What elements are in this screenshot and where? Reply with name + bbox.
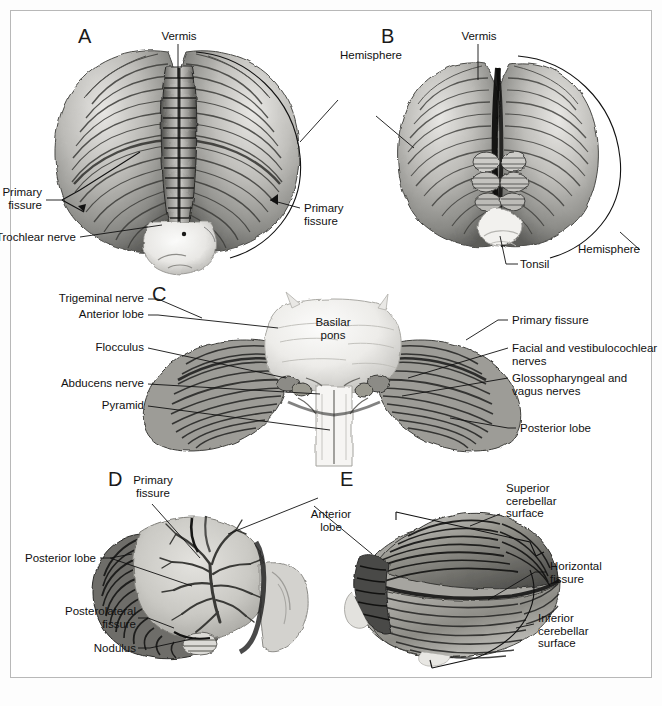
label-flocculus-c: Flocculus — [64, 341, 144, 354]
label-superior-cerebellar-surface-e: Superior cerebellar surface — [506, 482, 557, 520]
label-primary-fissure-d: Primary fissure — [124, 474, 182, 499]
label-horizontal-fissure-e: Horizontal fissure — [550, 560, 602, 585]
label-anterior-lobe-c: Anterior lobe — [40, 308, 144, 321]
label-vermis-b: Vermis — [451, 30, 507, 43]
label-posterolateral-fissure-d: Posterolateral fissure — [44, 605, 136, 630]
label-trigeminal-nerve-c: Trigeminal nerve — [30, 292, 144, 305]
panel-b-illustration — [378, 22, 646, 277]
label-vermis-a: Vermis — [151, 30, 207, 43]
label-primary-fissure-a-right: Primary fissure — [304, 202, 344, 227]
panel-letter-d: D — [108, 468, 123, 491]
label-posterior-lobe-c: Posterior lobe — [520, 422, 591, 435]
panel-letter-a: A — [78, 25, 92, 48]
label-hemisphere-b: Hemisphere — [578, 243, 640, 256]
panel-letter-b: B — [381, 25, 395, 48]
label-trochlear-nerve-a: Trochlear nerve — [0, 231, 76, 244]
label-pyramid-c: Pyramid — [76, 399, 144, 412]
panel-d: D Primary fissure Posterior lobe Postero… — [24, 472, 324, 668]
label-glossopharyngeal-vagus-nerves-c: Glossopharyngeal and vagus nerves — [512, 372, 627, 397]
label-tonsil-b: Tonsil — [520, 258, 549, 271]
panel-letter-c: C — [152, 283, 167, 306]
panel-b: Vermis Hemisphere Tonsil — [378, 22, 646, 277]
panel-c: Trigeminal nerve Anterior lobe Flocculus… — [30, 282, 630, 468]
anatomy-figure: Vermis Hemisphere Primary fissure Primar… — [0, 0, 662, 706]
label-primary-fissure-c: Primary fissure — [512, 314, 589, 327]
panel-letter-e: E — [340, 468, 354, 491]
label-abducens-nerve-c: Abducens nerve — [30, 377, 144, 390]
label-nodulus-d: Nodulus — [66, 642, 136, 655]
label-inferior-cerebellar-surface-e: Inferior cerebellar surface — [538, 612, 589, 650]
panel-a: Vermis Hemisphere Primary fissure Primar… — [18, 22, 368, 277]
label-posterior-lobe-d: Posterior lobe — [0, 552, 96, 565]
label-basilar-pons-c: Basilar pons — [302, 316, 364, 341]
label-facial-vestibulocochlear-nerves-c: Facial and vestibulocochlear nerves — [512, 342, 657, 367]
panel-d-illustration — [24, 472, 324, 668]
panel-e: E Superior cerebellar surface Horizontal… — [330, 472, 640, 668]
label-primary-fissure-a-left: Primary fissure — [0, 186, 42, 211]
label-anterior-lobe-shared: Anterior lobe — [300, 508, 362, 533]
